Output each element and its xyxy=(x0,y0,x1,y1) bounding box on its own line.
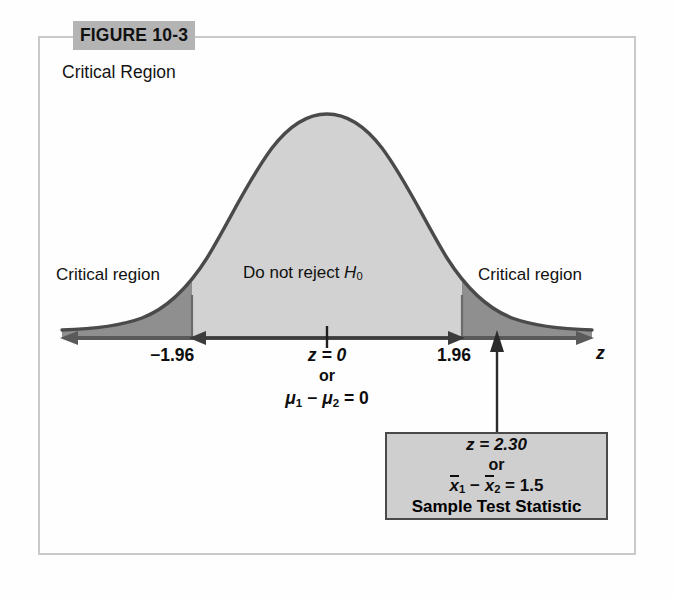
callout-or-label: or xyxy=(489,455,505,474)
center-value-stack: z = 0 or μ1 − μ2 = 0 xyxy=(247,344,407,410)
label-critical-region-left: Critical region xyxy=(56,265,160,285)
mu2-symbol: μ xyxy=(322,388,333,408)
xbar2-symbol: x xyxy=(485,475,494,494)
tick-label-positive: 1.96 xyxy=(437,345,471,366)
xbar-minus-sign: − xyxy=(465,476,484,495)
null-hypothesis-subscript: 0 xyxy=(356,270,362,282)
sample-test-statistic-callout: z = 2.30 or x1 − x2 = 1.5 Sample Test St… xyxy=(385,432,608,520)
callout-z-value: z = 2.30 xyxy=(466,435,527,455)
callout-caption: Sample Test Statistic xyxy=(412,497,582,517)
tick-label-negative: −1.96 xyxy=(150,345,194,366)
do-not-reject-text: Do not reject xyxy=(243,263,344,282)
label-critical-region-right: Critical region xyxy=(478,265,582,285)
null-hypothesis-symbol: H xyxy=(344,263,356,282)
callout-xbar-difference: x1 − x2 = 1.5 xyxy=(450,475,544,497)
do-not-reject-region xyxy=(192,100,462,338)
center-or-label: or xyxy=(247,366,407,386)
center-z-equals-zero: z = 0 xyxy=(247,344,407,366)
label-do-not-reject: Do not reject H0 xyxy=(243,263,363,283)
center-mu-difference: μ1 − μ2 = 0 xyxy=(247,387,407,410)
mu-equals-zero: = 0 xyxy=(339,388,369,408)
figure-container: FIGURE 10-3 Critical Region xyxy=(0,0,674,598)
axis-label-z: z xyxy=(596,343,605,364)
xbar-equals-value: = 1.5 xyxy=(500,476,543,495)
mu-minus-sign: − xyxy=(302,388,322,408)
xbar1-symbol: x xyxy=(450,475,459,494)
mu1-symbol: μ xyxy=(285,388,296,408)
